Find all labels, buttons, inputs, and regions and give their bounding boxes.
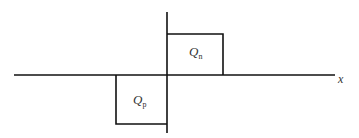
qp-label: Qp: [133, 92, 146, 109]
charge-distribution-diagram: Qn Qp x: [0, 0, 359, 138]
qn-label: Qn: [189, 44, 202, 61]
x-axis-label: x: [337, 72, 344, 86]
